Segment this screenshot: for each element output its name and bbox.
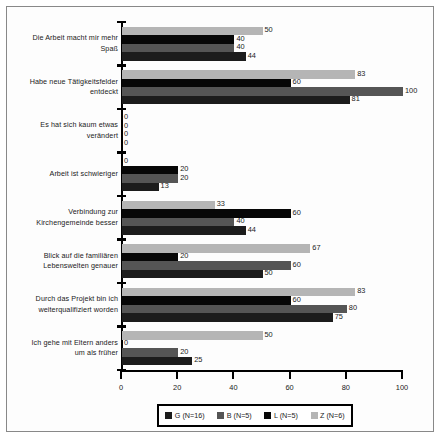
bar-b: [122, 218, 234, 227]
bar-l: [122, 253, 178, 262]
legend-item: Z (N=6): [311, 411, 345, 420]
bar-l: [122, 35, 234, 44]
category-label: Blick auf die familiärenLebenswelten gen…: [14, 251, 118, 272]
bar-value-label: 0: [124, 157, 128, 166]
bar-value-label: 0: [124, 339, 128, 348]
bar-g: [122, 357, 192, 366]
bar-l: [122, 296, 291, 305]
category-label-line: Ich gehe mit Eltern anders: [14, 338, 118, 349]
bar-g: [122, 226, 246, 235]
bar-l: [122, 79, 291, 88]
bar-g: [122, 52, 246, 61]
legend-label: L (N=5): [274, 411, 298, 420]
bar-b: [122, 348, 178, 357]
bar-value-label: 40: [236, 43, 244, 52]
y-axis-tick: [117, 64, 126, 66]
x-axis-tick: [176, 370, 178, 379]
category-label-line: Verbindung zur: [14, 207, 118, 218]
category-label: Durch das Projekt bin ichweiterqualifizi…: [14, 294, 118, 315]
x-axis-tick: [120, 370, 122, 379]
bar-value-label: 20: [180, 174, 188, 183]
x-axis-tick-label: 40: [213, 383, 253, 392]
y-axis-tick: [117, 238, 126, 240]
x-axis-tick-label: 20: [157, 383, 197, 392]
bar-value-label: 50: [265, 331, 273, 340]
bar-b: [122, 44, 234, 53]
x-axis-tick-label: 80: [326, 383, 366, 392]
bar-value-label: 13: [161, 182, 169, 191]
bar-value-label: 80: [349, 304, 357, 313]
bar-l: [122, 209, 291, 218]
y-axis-tick: [117, 195, 126, 197]
legend-swatch-l: [264, 412, 271, 419]
category-label-line: Lebenswelten genauer: [14, 261, 118, 272]
bar-z: [122, 288, 355, 297]
x-axis-line: [121, 370, 402, 372]
category-label-line: Habe neue Tätigkeitsfelder: [14, 77, 118, 88]
bar-z: [122, 70, 355, 79]
legend-swatch-g: [165, 412, 172, 419]
y-axis-tick: [117, 282, 126, 284]
legend-item: G (N=16): [165, 411, 204, 420]
bar-value-label: 83: [357, 70, 365, 79]
bar-z: [122, 201, 215, 210]
category-label-line: um als früher: [14, 348, 118, 359]
legend-label: B (N=5): [227, 411, 252, 420]
y-axis-tick: [117, 325, 126, 327]
legend-item: B (N=5): [217, 411, 251, 420]
bar-value-label: 60: [293, 78, 301, 87]
bar-value-label: 60: [293, 209, 301, 218]
category-label: Ich gehe mit Eltern andersum als früher: [14, 338, 118, 359]
y-axis-tick: [117, 21, 126, 23]
category-label: Verbindung zurKirchengemeinde besser: [14, 207, 118, 228]
category-label-line: weiterqualifiziert worden: [14, 305, 118, 316]
bar-value-label: 60: [293, 261, 301, 270]
chart-legend: G (N=16)B (N=5)L (N=5)Z (N=6): [157, 404, 353, 427]
legend-swatch-z: [311, 412, 318, 419]
y-axis-tick: [117, 108, 126, 110]
bar-g: [122, 313, 333, 322]
x-axis-tick-label: 100: [382, 383, 422, 392]
category-label-line: Blick auf die familiären: [14, 251, 118, 262]
bar-value-label: 20: [180, 252, 188, 261]
category-label-line: Durch das Projekt bin ich: [14, 294, 118, 305]
y-axis-tick: [117, 151, 126, 153]
category-label-line: verändert: [14, 131, 118, 142]
x-axis-tick: [401, 370, 403, 379]
bar-g: [122, 96, 350, 105]
bar-b: [122, 87, 403, 96]
category-label-line: Arbeit ist schwieriger: [14, 169, 118, 180]
category-label-line: Die Arbeit macht mir mehr: [14, 33, 118, 44]
bar-g: [122, 270, 263, 279]
x-axis-tick: [232, 370, 234, 379]
legend-item: L (N=5): [264, 411, 297, 420]
bar-value-label: 83: [357, 287, 365, 296]
category-label-line: Es hat sich kaum etwas: [14, 120, 118, 131]
x-axis-tick: [345, 370, 347, 379]
legend-label: G (N=16): [175, 411, 205, 420]
bar-z: [122, 331, 263, 340]
bar-value-label: 44: [248, 226, 256, 235]
bar-value-label: 60: [293, 296, 301, 305]
category-label: Die Arbeit macht mir mehrSpaß: [14, 33, 118, 54]
bar-b: [122, 174, 178, 183]
bar-b: [122, 305, 347, 314]
legend-label: Z (N=6): [320, 411, 345, 420]
chart-container: Die Arbeit macht mir mehrSpaßHabe neue T…: [0, 0, 442, 440]
category-label: Habe neue Tätigkeitsfelderentdeckt: [14, 77, 118, 98]
bar-value-label: 20: [180, 348, 188, 357]
category-label-line: Kirchengemeinde besser: [14, 218, 118, 229]
bar-value-label: 44: [248, 52, 256, 61]
bar-value-label: 75: [335, 313, 343, 322]
bar-value-label: 67: [312, 244, 320, 253]
plot-area: 020406080100 504040448360100810000020201…: [121, 22, 402, 370]
legend-swatch-b: [217, 412, 224, 419]
bar-value-label: 40: [236, 217, 244, 226]
bar-value-label: 100: [405, 87, 417, 96]
bar-value-label: 50: [265, 26, 273, 35]
category-label: Arbeit ist schwieriger: [14, 169, 118, 180]
category-label-line: Spaß: [14, 44, 118, 55]
x-axis-tick-label: 0: [101, 383, 141, 392]
category-label-line: entdeckt: [14, 87, 118, 98]
bar-value-label: 0: [124, 139, 128, 148]
